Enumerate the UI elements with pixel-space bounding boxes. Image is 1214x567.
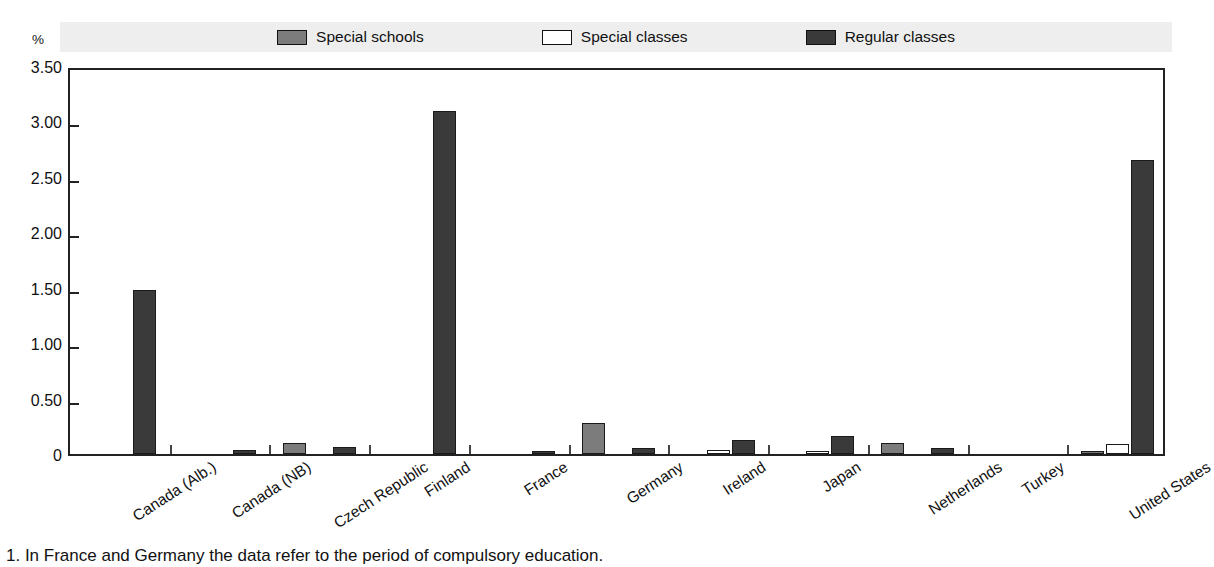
bar-regular-classes [632,448,655,454]
bar-special-classes [707,450,730,454]
bar-group [968,70,1068,454]
bar-regular-classes [1131,160,1154,454]
x-axis-category-label: Czech Republic [331,458,432,532]
y-axis-tick-label: 0.50 [4,392,62,410]
x-axis-category-label: Canada (Alb.) [129,458,219,525]
y-axis-tick-label: 1.00 [4,336,62,354]
bar-special-schools [881,443,904,454]
bar-regular-classes [333,447,356,454]
bar-regular-classes [931,448,954,454]
x-axis-tick-mark [170,445,172,454]
legend-label: Special classes [581,28,688,46]
x-axis-category-label: Japan [819,458,864,496]
x-axis-tick-mark [469,445,471,454]
x-axis-category-label: Turkey [1019,458,1068,499]
legend-swatch-special-classes [542,30,572,45]
x-axis-tick-mark [269,445,271,454]
y-axis-tick-label: 0 [4,447,62,465]
legend-label: Regular classes [845,28,955,46]
bar-group [768,70,868,454]
legend-label: Special schools [316,28,424,46]
x-axis-tick-mark [668,445,670,454]
x-axis-category-label: Germany [623,458,686,508]
bar-group [269,70,369,454]
bar-special-schools [1081,451,1104,454]
bar-regular-classes [532,451,555,454]
bar-special-classes [806,451,829,454]
chart-legend: Special schoolsSpecial classesRegular cl… [60,22,1172,52]
x-axis-tick-mark [868,445,870,454]
x-axis-tick-mark [1067,445,1069,454]
bar-special-schools [283,443,306,454]
legend-item-special-classes: Special classes [542,28,688,46]
x-axis-category-label: Ireland [720,458,770,499]
y-axis-tick-label: 2.50 [4,170,62,188]
x-axis-category-label: France [521,458,571,499]
bar-special-classes [1106,444,1129,454]
bar-regular-classes [732,440,755,454]
x-axis-tick-mark [768,445,770,454]
bar-regular-classes [831,436,854,454]
x-axis-tick-mark [369,445,371,454]
bar-special-schools [582,423,605,454]
bar-group [868,70,968,454]
bar-group [668,70,768,454]
bar-group [70,70,170,454]
y-axis-tick-labels: 3.503.002.502.001.501.000.500 [0,0,62,567]
x-axis-tick-mark [968,445,970,454]
x-axis-category-labels: Canada (Alb.)Canada (NB)Czech RepublicFi… [68,458,1165,553]
bar-regular-classes [233,450,256,454]
y-axis-tick-label: 2.00 [4,225,62,243]
y-axis-tick-label: 3.00 [4,114,62,132]
legend-item-special-schools: Special schools [277,28,424,46]
bar-group [170,70,270,454]
bars-layer [70,70,1163,454]
bar-regular-classes [433,111,456,454]
legend-swatch-regular-classes [806,30,836,45]
legend-item-regular-classes: Regular classes [806,28,955,46]
x-axis-category-label: United States [1126,458,1214,524]
bar-group [369,70,469,454]
x-axis-category-label: Netherlands [925,458,1005,519]
bar-group [1067,70,1167,454]
legend-swatch-special-schools [277,30,307,45]
bar-group [569,70,669,454]
y-axis-tick-label: 1.50 [4,281,62,299]
bar-regular-classes [133,290,156,454]
y-axis-tick-label: 3.50 [4,59,62,77]
x-axis-category-label: Finland [421,458,473,501]
chart-footnote: 1. In France and Germany the data refer … [6,546,603,566]
x-axis-tick-mark [569,445,571,454]
bar-group [469,70,569,454]
x-axis-category-label: Canada (NB) [228,458,314,522]
plot-area [68,68,1165,456]
